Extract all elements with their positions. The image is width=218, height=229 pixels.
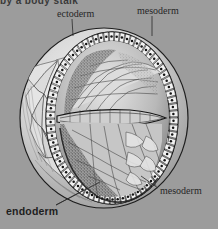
cell-nucleus xyxy=(121,36,124,39)
truncated-caption: by a body stalk xyxy=(0,0,118,7)
cell-nucleus xyxy=(160,165,163,168)
label-mesoderm-bottom: mesoderm xyxy=(160,185,202,196)
cell-nucleus xyxy=(163,73,166,76)
cell-nucleus xyxy=(59,160,62,163)
cell-nucleus xyxy=(127,195,130,198)
cell-nucleus xyxy=(165,80,168,83)
cell-nucleus xyxy=(80,46,83,49)
cell-nucleus xyxy=(111,198,114,201)
cell-nucleus xyxy=(131,40,134,43)
cell-nucleus xyxy=(85,43,88,46)
cell-nucleus xyxy=(72,181,75,184)
cell-nucleus xyxy=(172,126,175,129)
cell-nucleus xyxy=(68,58,71,61)
cell-nucleus xyxy=(149,53,152,56)
cell-nucleus xyxy=(146,184,149,187)
cell-nucleus xyxy=(172,106,175,109)
cell-nucleus xyxy=(50,128,53,131)
cell-nucleus xyxy=(90,40,93,43)
cell-nucleus xyxy=(56,81,59,84)
cell-nucleus xyxy=(150,180,153,183)
label-endoderm: endoderm xyxy=(6,206,58,217)
cell-nucleus xyxy=(51,100,54,103)
cell-nucleus xyxy=(49,114,52,117)
cell-nucleus xyxy=(153,57,156,60)
cell-nucleus xyxy=(169,92,172,95)
cell-nucleus xyxy=(168,147,171,150)
cell-nucleus xyxy=(62,166,65,169)
cell-nucleus xyxy=(171,99,174,102)
cell-nucleus xyxy=(86,191,89,194)
cell-nucleus xyxy=(137,191,140,194)
label-mesoderm-top: mesoderm xyxy=(137,5,179,16)
cell-nucleus xyxy=(50,107,53,110)
cell-nucleus xyxy=(110,35,113,38)
cell-nucleus xyxy=(170,140,173,143)
cell-nucleus xyxy=(163,159,166,162)
cell-nucleus xyxy=(61,69,64,72)
leader-line-ectoderm xyxy=(72,19,73,36)
cell-nucleus xyxy=(52,141,55,144)
cell-nucleus xyxy=(172,120,175,123)
cell-nucleus xyxy=(52,93,55,96)
cell-nucleus xyxy=(72,54,75,57)
cell-nucleus xyxy=(115,35,118,38)
cell-nucleus xyxy=(154,175,157,178)
cell-nucleus xyxy=(132,193,135,196)
cell-nucleus xyxy=(140,45,143,48)
cell-nucleus xyxy=(69,176,72,179)
cell-nucleus xyxy=(54,148,57,151)
cell-nucleus xyxy=(54,87,57,90)
cell-nucleus xyxy=(157,170,160,173)
cell-nucleus xyxy=(166,153,169,156)
cell-nucleus xyxy=(126,38,129,41)
cell-nucleus xyxy=(64,63,67,66)
cell-nucleus xyxy=(157,62,160,64)
cell-nucleus xyxy=(58,75,61,78)
cell-nucleus xyxy=(105,36,108,39)
cell-nucleus xyxy=(160,68,163,71)
cell-nucleus xyxy=(171,133,174,136)
cell-nucleus xyxy=(172,113,175,116)
cell-nucleus xyxy=(77,185,80,188)
cell-nucleus xyxy=(145,49,148,52)
cell-nucleus xyxy=(56,154,59,157)
cell-nucleus xyxy=(122,197,125,200)
cell-nucleus xyxy=(116,198,119,201)
cell-nucleus xyxy=(168,86,171,89)
label-ectoderm: ectoderm xyxy=(57,8,94,19)
cell-nucleus xyxy=(95,38,98,41)
cell-nucleus xyxy=(136,42,139,45)
cell-nucleus xyxy=(65,171,68,174)
cell-nucleus xyxy=(49,121,52,124)
cell-nucleus xyxy=(51,135,54,138)
cell-nucleus xyxy=(100,37,103,40)
cell-nucleus xyxy=(76,50,79,53)
